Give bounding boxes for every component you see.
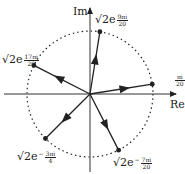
vector-endpoint — [150, 82, 154, 86]
real-axis-label: Re — [170, 98, 185, 111]
imag-axis-label: Im — [73, 5, 88, 18]
arrowhead-icon — [101, 120, 110, 130]
vector-label-17pi20: √2e17πi20 — [2, 54, 39, 67]
vector-endpoint — [44, 137, 48, 141]
arrowhead-icon — [120, 85, 129, 92]
arrowhead-icon — [92, 55, 99, 64]
vector-label-neg7pi20: √2e−7πi20 — [113, 157, 152, 170]
vector-label-neg3pi4: √2e−3πi4 — [17, 151, 56, 164]
vector-endpoint — [117, 148, 121, 152]
vector-endpoint — [98, 30, 102, 34]
arrowhead-icon — [54, 74, 64, 83]
diagram-graphics — [0, 0, 185, 174]
vector-label-pi20: πi20 — [174, 74, 185, 87]
complex-plane-diagram: Im Re √2e9πi20 √2e17πi20 πi20 √2e−3πi4 √… — [0, 0, 185, 174]
vector-label-9pi20: √2e9πi20 — [95, 14, 128, 27]
